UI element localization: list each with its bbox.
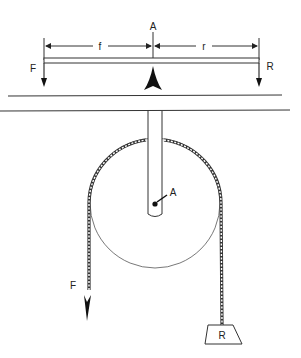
axle-dot-icon (152, 201, 157, 206)
pulley-group: A F R (0, 110, 290, 344)
effort-force-label: F (30, 63, 36, 74)
lever-pulley-diagram: f r A F R (0, 0, 301, 358)
effort-arm-label: f (99, 41, 102, 52)
lever-group: f r A F R (8, 21, 282, 96)
fulcrum-icon (144, 66, 162, 90)
load-label: R (218, 330, 225, 341)
effort-arrow-icon (41, 78, 47, 87)
pulley-effort-label: F (70, 280, 76, 291)
fulcrum-label: A (150, 21, 157, 32)
resistance-arrow-icon (256, 78, 262, 87)
effort-pull-arrow-icon (84, 295, 91, 321)
ceiling-line (0, 110, 290, 111)
lever-bar (44, 58, 259, 63)
resistance-arm-label: r (202, 41, 206, 52)
axle-label: A (170, 187, 177, 198)
resistance-force-label: R (266, 61, 273, 72)
ground-line (8, 95, 282, 96)
